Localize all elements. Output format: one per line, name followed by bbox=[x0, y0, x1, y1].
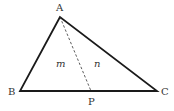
vertex-label-c: C bbox=[161, 86, 169, 97]
triangle-abc bbox=[20, 17, 157, 91]
vertex-label-b: B bbox=[8, 86, 15, 97]
triangle-diagram: A B C P m n bbox=[0, 0, 174, 111]
region-label-m: m bbox=[56, 58, 65, 69]
vertex-label-a: A bbox=[55, 2, 64, 13]
point-label-p: P bbox=[88, 96, 95, 107]
region-label-n: n bbox=[94, 58, 100, 69]
